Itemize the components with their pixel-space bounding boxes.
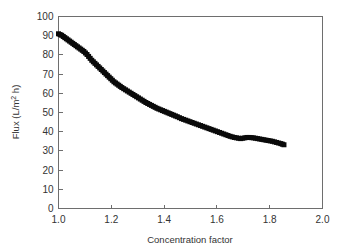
x-axis-title: Concentration factor (147, 234, 233, 245)
y-tick-label: 10 (42, 184, 54, 195)
chart-figure: 1.01.21.41.61.82.0 010203040506070809010… (0, 0, 339, 249)
y-tick-label: 80 (42, 49, 54, 60)
y-axis-title-post: h) (10, 85, 21, 96)
data-point (281, 142, 286, 147)
y-tick-label: 0 (48, 203, 54, 214)
y-tick-label: 20 (42, 165, 54, 176)
y-tick-label: 100 (37, 11, 54, 22)
svg-text:Flux (L/m2 h): Flux (L/m2 h) (10, 85, 22, 140)
x-tick-label: 1.8 (263, 214, 277, 225)
y-tick-label: 90 (42, 30, 54, 41)
x-tick-label: 1.4 (157, 214, 171, 225)
y-tick-label: 60 (42, 88, 54, 99)
x-tick-label: 1.0 (52, 214, 66, 225)
x-tick-label: 1.6 (210, 214, 224, 225)
y-tick-label: 40 (42, 126, 54, 137)
y-tick-label: 50 (42, 107, 54, 118)
x-tick-label: 2.0 (316, 214, 330, 225)
y-tick-label: 70 (42, 69, 54, 80)
y-axis-title: Flux (L/m2 h) (10, 85, 22, 140)
flux-concentration-scatter-chart: 1.01.21.41.61.82.0 010203040506070809010… (0, 0, 339, 249)
y-tick-label: 30 (42, 145, 54, 156)
x-tick-label: 1.2 (104, 214, 118, 225)
y-axis-title-pre: Flux (L/m (10, 100, 21, 140)
